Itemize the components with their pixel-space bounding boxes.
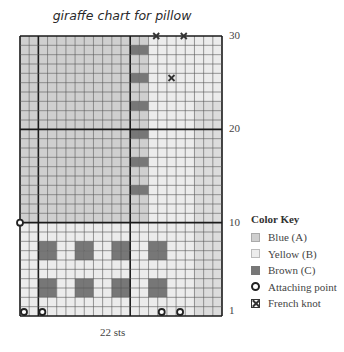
grid-cell xyxy=(167,111,176,120)
grid-cell xyxy=(167,167,176,176)
grid-cell xyxy=(38,204,47,213)
grid-cell xyxy=(158,223,167,232)
grid-cell xyxy=(48,260,57,269)
grid-cell xyxy=(93,251,102,260)
grid-cell xyxy=(130,251,139,260)
grid-cell xyxy=(66,157,75,166)
grid-cell xyxy=(112,64,121,73)
grid-cell xyxy=(185,251,194,260)
grid-cell xyxy=(194,251,203,260)
grid-cell xyxy=(130,204,139,213)
grid-cell xyxy=(213,101,222,110)
grid-cell xyxy=(29,204,38,213)
grid-cell xyxy=(204,241,213,250)
grid-cell xyxy=(93,269,102,278)
grid-cell xyxy=(38,111,47,120)
grid-cell xyxy=(29,36,38,45)
grid-cell xyxy=(29,307,38,316)
grid-cell xyxy=(194,297,203,306)
grid-cell xyxy=(194,279,203,288)
grid-cell xyxy=(139,167,148,176)
grid-cell xyxy=(176,45,185,54)
attaching-point-icon xyxy=(21,309,27,315)
grid-cell xyxy=(121,176,130,185)
grid-cell xyxy=(112,36,121,45)
stitch-count-label: 22 sts xyxy=(100,326,125,338)
grid-cell xyxy=(158,288,167,297)
grid-cell xyxy=(38,92,47,101)
grid-cell xyxy=(213,129,222,138)
grid-cell xyxy=(93,232,102,241)
grid-cell xyxy=(112,139,121,148)
grid-cell xyxy=(149,83,158,92)
grid-cell xyxy=(75,167,84,176)
grid-cell xyxy=(84,101,93,110)
grid-cell xyxy=(167,307,176,316)
grid-cell xyxy=(194,307,203,316)
grid-cell xyxy=(84,269,93,278)
grid-cell xyxy=(103,297,112,306)
grid-cell xyxy=(20,111,29,120)
grid-cell xyxy=(149,36,158,45)
grid-cell xyxy=(57,148,66,157)
grid-cell xyxy=(158,297,167,306)
grid-cell xyxy=(213,204,222,213)
grid-cell xyxy=(66,176,75,185)
grid-cell xyxy=(29,251,38,260)
grid-cell xyxy=(75,232,84,241)
grid-cell xyxy=(185,288,194,297)
grid-cell xyxy=(75,204,84,213)
grid-cell xyxy=(75,83,84,92)
grid-cell xyxy=(48,195,57,204)
grid-cell xyxy=(103,241,112,250)
grid-cell xyxy=(112,111,121,120)
grid-cell xyxy=(130,260,139,269)
grid-cell xyxy=(130,185,139,194)
grid-cell xyxy=(103,307,112,316)
grid-cell xyxy=(103,73,112,82)
grid-cell xyxy=(93,129,102,138)
grid-cell xyxy=(66,45,75,54)
grid-cell xyxy=(121,213,130,222)
grid-cell xyxy=(204,232,213,241)
grid-cell xyxy=(29,73,38,82)
grid-cell xyxy=(103,279,112,288)
grid-cell xyxy=(75,55,84,64)
grid-cell xyxy=(158,36,167,45)
grid-cell xyxy=(29,232,38,241)
grid-cell xyxy=(213,279,222,288)
grid-cell xyxy=(158,73,167,82)
grid-cell xyxy=(48,45,57,54)
grid-cell xyxy=(84,64,93,73)
grid-cell xyxy=(194,213,203,222)
grid-cell xyxy=(121,307,130,316)
grid-cell xyxy=(66,120,75,129)
grid-cell xyxy=(194,36,203,45)
grid-cell xyxy=(204,176,213,185)
grid-cell xyxy=(121,241,130,250)
grid-cell xyxy=(29,185,38,194)
grid-cell xyxy=(103,204,112,213)
color-key: Color Key Blue (A) Yellow (B) Brown (C) … xyxy=(251,213,337,312)
grid-cell xyxy=(84,36,93,45)
grid-cell xyxy=(139,241,148,250)
grid-cell xyxy=(167,120,176,129)
grid-cell xyxy=(103,129,112,138)
grid-cell xyxy=(29,288,38,297)
grid-cell xyxy=(29,195,38,204)
grid-cell xyxy=(194,129,203,138)
grid-cell xyxy=(66,83,75,92)
grid-cell xyxy=(149,223,158,232)
grid-cell xyxy=(139,148,148,157)
grid-cell xyxy=(194,111,203,120)
grid-cell xyxy=(48,185,57,194)
grid-cell xyxy=(66,241,75,250)
grid-cell xyxy=(149,73,158,82)
grid-cell xyxy=(84,195,93,204)
grid-cell xyxy=(103,195,112,204)
grid-cell xyxy=(194,260,203,269)
grid-cell xyxy=(93,73,102,82)
grid-cell xyxy=(93,297,102,306)
grid-cell xyxy=(185,64,194,73)
grid-cell xyxy=(112,241,121,250)
